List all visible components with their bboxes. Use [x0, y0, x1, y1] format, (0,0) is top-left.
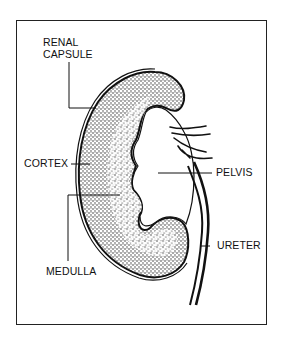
- label-pelvis: PELVIS: [216, 167, 253, 178]
- label-renal-capsule-line2: CAPSULE: [43, 49, 93, 60]
- leader-renal-capsule: [69, 62, 96, 108]
- label-cortex: CORTEX: [24, 158, 68, 169]
- label-medulla: MEDULLA: [46, 266, 96, 277]
- label-renal-capsule-line1: RENAL: [43, 37, 79, 48]
- label-ureter: URETER: [217, 240, 261, 251]
